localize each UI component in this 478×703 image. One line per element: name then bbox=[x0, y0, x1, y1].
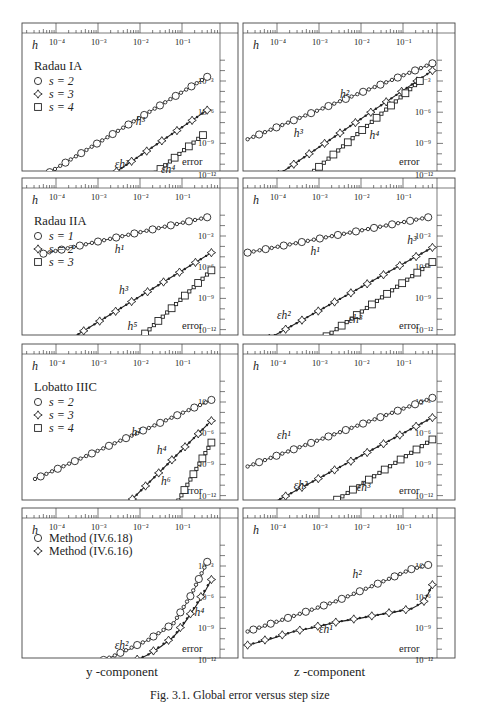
error-axis-label: error bbox=[182, 643, 203, 654]
slope-annotation: h³ bbox=[119, 284, 129, 296]
chart-panel-7: 10⁻⁴10⁻³10⁻²10⁻¹h10⁻³10⁻⁶10⁻⁹10⁻¹²errorε… bbox=[22, 508, 238, 683]
slope-annotation: εh² bbox=[294, 479, 308, 491]
h-tick-label: 10⁻³ bbox=[91, 192, 107, 202]
h-tick-label: 10⁻³ bbox=[91, 358, 107, 368]
slope-annotation: h² bbox=[132, 426, 142, 438]
h-tick-label: 10⁻² bbox=[354, 37, 370, 47]
slope-annotation: h³ bbox=[407, 234, 417, 246]
h-tick-label: 10⁻³ bbox=[91, 37, 107, 47]
slope-annotation: εh² bbox=[115, 639, 129, 651]
h-tick-label: 10⁻² bbox=[133, 192, 149, 202]
h-tick-label: 10⁻¹ bbox=[396, 192, 412, 202]
error-tick-label: 10⁻⁹ bbox=[415, 293, 431, 303]
h-tick-label: 10⁻⁴ bbox=[49, 192, 65, 202]
h-tick-label: 10⁻⁴ bbox=[270, 358, 286, 368]
method-title: Lobatto IIIC bbox=[34, 380, 97, 394]
legend-entry: s = 1 bbox=[49, 229, 74, 243]
h-axis-label: h bbox=[32, 38, 38, 52]
legend-entry: s = 3 bbox=[49, 408, 74, 422]
error-axis-label: error bbox=[399, 485, 420, 496]
h-tick-label: 10⁻⁴ bbox=[49, 37, 65, 47]
chart-panel-2: 10⁻⁴10⁻³10⁻²10⁻¹h10⁻³10⁻⁶10⁻⁹10⁻¹²errorh… bbox=[243, 23, 455, 200]
error-axis-label: error bbox=[182, 320, 203, 331]
legend-entry: Method (IV.6.18) bbox=[49, 531, 132, 545]
error-axis-label: error bbox=[399, 643, 420, 654]
legend-entry: s = 2 bbox=[49, 242, 74, 256]
slope-annotation: h⁵ bbox=[127, 320, 137, 332]
method-title: Radau IA bbox=[34, 59, 82, 73]
slope-annotation: εh⁴ bbox=[161, 163, 175, 175]
slope-annotation: h³ bbox=[294, 127, 304, 139]
h-tick-label: 10⁻⁴ bbox=[270, 37, 286, 47]
chart-panel-5: 10⁻⁴10⁻³10⁻²10⁻¹h10⁻³10⁻⁶10⁻⁹10⁻¹²errorh… bbox=[22, 344, 238, 518]
h-tick-label: 10⁻¹ bbox=[175, 358, 191, 368]
error-axis-label: error bbox=[399, 320, 420, 331]
h-tick-label: 10⁻¹ bbox=[396, 358, 412, 368]
h-tick-label: 10⁻¹ bbox=[396, 37, 412, 47]
error-axis-label: error bbox=[182, 156, 203, 167]
error-tick-label: 10⁻¹² bbox=[198, 655, 217, 665]
legend-entry: s = 2 bbox=[49, 74, 74, 88]
slope-annotation: h⁴ bbox=[369, 129, 379, 141]
error-tick-label: 10⁻³ bbox=[415, 231, 431, 241]
chart-panel-8: 10⁻⁴10⁻³10⁻²10⁻¹h10⁻³10⁻⁶10⁻⁹10⁻¹²errorh… bbox=[243, 508, 455, 665]
column-label-y: y -component bbox=[86, 664, 158, 680]
h-tick-label: 10⁻² bbox=[354, 522, 370, 532]
figure-caption: Fig. 3.1. Global error versus step size bbox=[150, 688, 330, 703]
legend-entry: s = 4 bbox=[49, 100, 74, 114]
error-tick-label: 10⁻⁹ bbox=[415, 623, 431, 633]
h-tick-label: 10⁻³ bbox=[312, 37, 328, 47]
slope-annotation: h¹ bbox=[311, 245, 321, 257]
h-tick-label: 10⁻⁴ bbox=[270, 522, 286, 532]
h-tick-label: 10⁻² bbox=[133, 37, 149, 47]
slope-annotation: εh¹ bbox=[277, 429, 291, 441]
legend-entry: s = 3 bbox=[49, 255, 74, 269]
error-tick-label: 10⁻⁹ bbox=[415, 138, 431, 148]
h-tick-label: 10⁻¹ bbox=[175, 522, 191, 532]
h-axis-label: h bbox=[253, 523, 259, 537]
slope-annotation: h⁶ bbox=[161, 475, 171, 487]
slope-annotation: h² bbox=[340, 88, 350, 100]
legend-entry: s = 3 bbox=[49, 87, 74, 101]
h-tick-label: 10⁻² bbox=[354, 192, 370, 202]
h-tick-label: 10⁻³ bbox=[312, 522, 328, 532]
legend-entry: s = 2 bbox=[49, 395, 74, 409]
method-title: Radau IIA bbox=[34, 214, 86, 228]
error-tick-label: 10⁻⁹ bbox=[415, 459, 431, 469]
error-tick-label: 10⁻¹² bbox=[415, 655, 434, 665]
chart-panel-3: 10⁻⁴10⁻³10⁻²10⁻¹h10⁻³10⁻⁶10⁻⁹10⁻¹²errorh… bbox=[22, 178, 238, 355]
error-tick-label: 10⁻⁹ bbox=[198, 293, 214, 303]
h-axis-label: h bbox=[32, 193, 38, 207]
h-tick-label: 10⁻² bbox=[133, 358, 149, 368]
slope-annotation: h¹ bbox=[115, 243, 125, 255]
h-axis-label: h bbox=[32, 359, 38, 373]
error-tick-label: 10⁻⁶ bbox=[415, 107, 431, 117]
h-tick-label: 10⁻¹ bbox=[396, 522, 412, 532]
h-tick-label: 10⁻³ bbox=[312, 358, 328, 368]
error-tick-label: 10⁻⁹ bbox=[198, 138, 214, 148]
legend-entry: s = 4 bbox=[49, 421, 74, 435]
slope-annotation: h³ bbox=[136, 115, 146, 127]
chart-panel-1: 10⁻⁴10⁻³10⁻²10⁻¹h10⁻³10⁻⁶10⁻⁹10⁻¹²errorh… bbox=[15, 23, 238, 197]
slope-annotation: εh³ bbox=[348, 313, 362, 325]
h-tick-label: 10⁻¹ bbox=[175, 192, 191, 202]
chart-panel-4: 10⁻⁴10⁻³10⁻²10⁻¹h10⁻³10⁻⁶10⁻⁹10⁻¹²errorh… bbox=[243, 178, 455, 352]
h-axis-label: h bbox=[253, 193, 259, 207]
h-tick-label: 10⁻² bbox=[133, 522, 149, 532]
legend-entry: Method (IV.6.16) bbox=[49, 544, 132, 558]
slope-annotation: h⁴ bbox=[157, 444, 167, 456]
column-label-z: z -component bbox=[294, 664, 365, 680]
slope-annotation: εh² bbox=[277, 309, 291, 321]
slope-annotation: h⁴ bbox=[195, 606, 205, 618]
h-axis-label: h bbox=[253, 359, 259, 373]
slope-annotation: εh¹ bbox=[319, 623, 333, 635]
h-tick-label: 10⁻⁴ bbox=[270, 192, 286, 202]
slope-annotation: h² bbox=[353, 568, 363, 580]
h-tick-label: 10⁻⁴ bbox=[49, 358, 65, 368]
error-axis-label: error bbox=[399, 156, 420, 167]
error-tick-label: 10⁻⁹ bbox=[198, 623, 214, 633]
h-tick-label: 10⁻¹ bbox=[175, 37, 191, 47]
h-axis-label: h bbox=[253, 38, 259, 52]
chart-panel-6: 10⁻⁴10⁻³10⁻²10⁻¹h10⁻³10⁻⁶10⁻⁹10⁻¹²errorε… bbox=[243, 344, 455, 518]
h-tick-label: 10⁻² bbox=[354, 358, 370, 368]
